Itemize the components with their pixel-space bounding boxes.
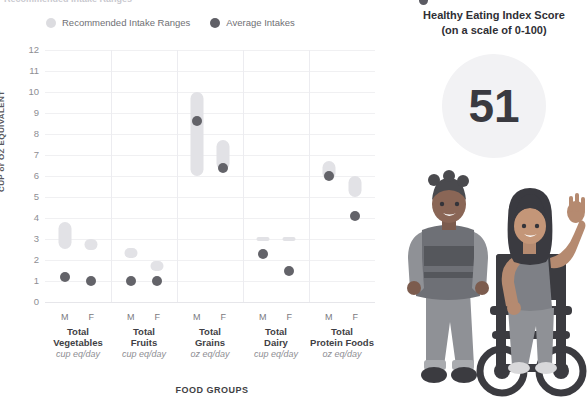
score-circle: 51: [442, 54, 546, 158]
average-intake-marker: [60, 272, 70, 282]
food-group-label: TotalDairycup eq/day: [254, 326, 298, 360]
y-axis-tick: 3: [34, 234, 39, 244]
group-separator: [111, 50, 112, 302]
y-axis-tick: 12: [28, 45, 39, 55]
food-group-unit: cup eq/day: [53, 349, 103, 360]
legend-item: Recommended Intake Ranges: [46, 17, 190, 28]
gridline: [45, 113, 375, 114]
recommended-range-marker: [256, 237, 269, 241]
average-intake-marker: [126, 276, 136, 286]
gridline: [45, 134, 375, 135]
recommended-range-marker: [124, 248, 137, 258]
recommended-range-marker: [190, 92, 203, 176]
legend-circle-icon: [210, 18, 220, 28]
gridline: [45, 71, 375, 72]
y-axis-tick: 7: [34, 150, 39, 160]
gridline: [45, 260, 375, 261]
infographic-root: Recommended Intake Ranges Recommended In…: [0, 0, 588, 400]
y-axis-tick: 9: [34, 108, 39, 118]
food-group-unit: oz eq/day: [190, 349, 229, 360]
y-axis-tick: 5: [34, 192, 39, 202]
score-title: Healthy Eating Index Score (on a scale o…: [400, 8, 588, 38]
average-intake-marker: [218, 163, 228, 173]
sex-label: M: [325, 312, 333, 322]
score-title-line1: Healthy Eating Index Score: [423, 9, 565, 21]
legend-label: Average Intakes: [226, 17, 294, 28]
group-separator: [177, 50, 178, 302]
y-axis-tick: 1: [34, 276, 39, 286]
y-axis-tick: 8: [34, 129, 39, 139]
gridline: [45, 197, 375, 198]
recommended-range-marker: [349, 176, 362, 197]
sex-label: F: [220, 312, 226, 322]
y-axis-tick: 0: [34, 297, 39, 307]
y-axis-title: CUP or OZ EQUIVALENT: [0, 91, 6, 193]
cut-off-header-strip: Recommended Intake Ranges: [0, 0, 588, 7]
average-intake-marker: [350, 211, 360, 221]
sex-label: F: [88, 312, 94, 322]
sex-label: F: [352, 312, 358, 322]
sex-label: F: [286, 312, 292, 322]
gridline: [45, 92, 375, 93]
recommended-range-marker: [85, 239, 98, 250]
food-group-unit: cup eq/day: [254, 349, 298, 360]
y-axis-tick: 11: [29, 66, 39, 76]
food-group-label: TotalVegetablescup eq/day: [53, 326, 103, 360]
plot-area: 0123456789101112: [45, 50, 375, 302]
score-value: 51: [468, 83, 519, 129]
sex-label: M: [127, 312, 135, 322]
recommended-range-marker: [151, 261, 164, 271]
recommended-range-marker: [283, 237, 296, 241]
recommended-range-marker: [58, 222, 71, 249]
food-group-unit: cup eq/day: [122, 349, 166, 360]
y-axis-tick: 4: [34, 213, 39, 223]
average-intake-marker: [284, 266, 294, 276]
legend-item: Average Intakes: [210, 17, 294, 28]
gridline: [45, 302, 375, 303]
standing-person-figure: [407, 170, 489, 383]
two-people-illustration: [404, 168, 588, 400]
sex-label: M: [193, 312, 201, 322]
food-group-name: TotalVegetables: [53, 326, 103, 348]
average-intake-marker: [192, 116, 202, 126]
y-axis-tick: 10: [28, 87, 39, 97]
waving-hand-icon: [567, 193, 585, 223]
food-group-name: TotalFruits: [122, 326, 166, 348]
group-separator: [309, 50, 310, 302]
average-intake-marker: [258, 249, 268, 259]
chart-legend: Recommended Intake RangesAverage Intakes: [46, 17, 295, 28]
average-intake-marker: [86, 276, 96, 286]
food-group-unit: oz eq/day: [310, 349, 374, 360]
sex-label: M: [259, 312, 267, 322]
cut-off-header-dot: [419, 0, 428, 5]
x-axis-title: FOOD GROUPS: [175, 385, 248, 395]
y-axis-tick: 6: [34, 171, 39, 181]
sex-label: F: [154, 312, 160, 322]
average-intake-marker: [152, 276, 162, 286]
score-title-line2: (on a scale of 0-100): [441, 24, 546, 36]
sex-label: M: [61, 312, 69, 322]
y-axis-tick: 2: [34, 255, 39, 265]
healthy-eating-index-panel: Healthy Eating Index Score (on a scale o…: [400, 8, 588, 38]
gridline: [45, 50, 375, 51]
group-separator: [243, 50, 244, 302]
gridline: [45, 218, 375, 219]
food-group-label: TotalGrainsoz eq/day: [190, 326, 229, 360]
average-intake-marker: [324, 171, 334, 181]
legend-label: Recommended Intake Ranges: [62, 17, 190, 28]
legend-circle-icon: [46, 18, 56, 28]
gridline: [45, 155, 375, 156]
food-group-name: TotalDairy: [254, 326, 298, 348]
cut-off-header-text: Recommended Intake Ranges: [4, 0, 132, 4]
food-group-label: TotalProtein Foodsoz eq/day: [310, 326, 374, 360]
seated-person-figure: [502, 188, 586, 374]
food-group-label: TotalFruitscup eq/day: [122, 326, 166, 360]
intake-chart: CUP or OZ EQUIVALENT 0123456789101112 MF…: [0, 40, 400, 340]
food-group-name: TotalProtein Foods: [310, 326, 374, 348]
food-group-name: TotalGrains: [190, 326, 229, 348]
